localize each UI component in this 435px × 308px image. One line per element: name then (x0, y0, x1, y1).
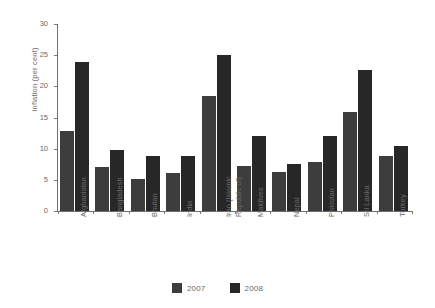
bar-2007 (272, 172, 286, 211)
x-axis-tick-mark (58, 211, 59, 214)
x-axis-tick-mark (270, 211, 271, 214)
x-axis-category-label: Turkey (398, 194, 407, 217)
x-axis-category-label: Sri Lanka (362, 185, 371, 217)
x-axis-category-label: Afghanistan (79, 177, 88, 217)
bar-2007 (131, 179, 145, 211)
bar-2007 (166, 173, 180, 211)
legend-swatch-icon (172, 283, 182, 293)
chart-legend: 20072008 (0, 283, 435, 293)
bar-group (341, 24, 376, 211)
x-axis-tick-mark (341, 211, 342, 214)
y-axis-tick-label: 30 (26, 20, 48, 28)
bar-2007 (308, 162, 322, 211)
bar-2007 (379, 156, 393, 211)
legend-item-2008: 2008 (230, 283, 264, 293)
legend-swatch-icon (230, 283, 240, 293)
legend-label: 2007 (187, 284, 206, 293)
bar-2007 (202, 96, 216, 211)
x-axis-tick-mark (377, 211, 378, 214)
bar-group (129, 24, 164, 211)
y-axis-tick-label: 25 (26, 51, 48, 59)
legend-label: 2008 (245, 284, 264, 293)
bar-group (377, 24, 412, 211)
x-axis-category-label: India (185, 201, 194, 217)
x-axis-tick-mark (200, 211, 201, 214)
bar-2007 (343, 112, 357, 211)
legend-item-2007: 2007 (172, 283, 206, 293)
bar-2007 (95, 167, 109, 211)
bar-group (306, 24, 341, 211)
bar-group (270, 24, 305, 211)
bar-2007 (60, 131, 74, 211)
x-axis-category-label: Maldives (256, 187, 265, 217)
x-axis-category-label: Bhutan (150, 193, 159, 217)
x-axis-category-label: Iran (IslamicRepublic of) (224, 176, 244, 217)
x-axis-category-label: Nepal (292, 197, 301, 217)
x-axis-tick-mark (412, 211, 413, 214)
x-axis-category-label: Bangladesh (115, 177, 124, 217)
bar-chart: Inflation (per cent) 051015202530 Afghan… (0, 0, 435, 308)
bar-group (164, 24, 199, 211)
y-axis-tick-label: 15 (26, 114, 48, 122)
y-axis-tick-label: 10 (26, 145, 48, 153)
y-axis-tick-label: 20 (26, 82, 48, 90)
x-axis-tick-mark (306, 211, 307, 214)
y-axis-tick-label: 0 (26, 207, 48, 215)
x-axis-tick-mark (93, 211, 94, 214)
x-axis-tick-mark (164, 211, 165, 214)
y-axis-tick-label: 5 (26, 176, 48, 184)
x-axis-category-label: Pakistan (327, 188, 336, 217)
x-axis-tick-mark (129, 211, 130, 214)
